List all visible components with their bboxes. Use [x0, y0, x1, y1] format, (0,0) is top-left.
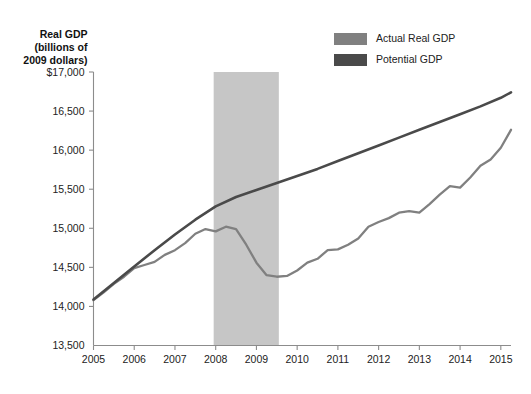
y-axis-title: Real GDP(billions of2009 dollars)	[23, 28, 88, 66]
chart-legend: Actual Real GDPPotential GDP	[334, 32, 455, 66]
y-tick-labels: 13,50014,00014,50015,00015,50016,00016,5…	[47, 66, 85, 352]
series-layer	[94, 92, 512, 300]
legend-label-1: Potential GDP	[376, 53, 443, 65]
y-tick-label-17000: $17,000	[47, 66, 85, 78]
series-line-actual-real-gdp	[94, 130, 512, 300]
x-tick-label-2006: 2006	[123, 353, 147, 365]
shaded-regions-layer	[214, 72, 279, 346]
axes-layer	[89, 72, 511, 350]
x-tick-labels: 2005200620072008200920102011201220132014…	[82, 353, 513, 365]
x-tick-label-2005: 2005	[82, 353, 106, 365]
x-tick-label-2012: 2012	[367, 353, 391, 365]
y-tick-label-16000: 16,000	[52, 144, 84, 156]
x-tick-label-2008: 2008	[204, 353, 228, 365]
series-line-potential-gdp	[94, 92, 512, 299]
x-tick-label-2010: 2010	[285, 353, 309, 365]
y-axis-title-line-1: (billions of	[34, 41, 88, 53]
x-tick-label-2011: 2011	[327, 353, 350, 365]
x-tick-label-2014: 2014	[448, 353, 472, 365]
y-tick-label-13500: 13,500	[52, 339, 84, 351]
y-axis-title-line-2: 2009 dollars)	[23, 54, 87, 66]
legend-label-0: Actual Real GDP	[376, 32, 455, 44]
y-tick-label-16500: 16,500	[52, 105, 84, 117]
y-tick-label-15500: 15,500	[52, 183, 84, 195]
y-tick-label-14500: 14,500	[52, 261, 84, 273]
chart-canvas: 13,50014,00014,50015,00015,50016,00016,5…	[0, 0, 531, 394]
legend-swatch-1	[334, 54, 367, 66]
y-axis-title-line-0: Real GDP	[40, 28, 88, 40]
y-tick-label-15000: 15,000	[52, 222, 84, 234]
y-tick-label-14000: 14,000	[52, 300, 84, 312]
x-tick-label-2007: 2007	[163, 353, 187, 365]
x-tick-label-2009: 2009	[245, 353, 269, 365]
legend-item-0: Actual Real GDP	[334, 32, 455, 45]
legend-swatch-0	[334, 33, 367, 45]
x-tick-label-2013: 2013	[408, 353, 432, 365]
recession-band	[214, 72, 279, 346]
x-tick-label-2015: 2015	[489, 353, 513, 365]
gdp-chart: 13,50014,00014,50015,00015,50016,00016,5…	[0, 0, 531, 394]
legend-item-1: Potential GDP	[334, 53, 443, 66]
